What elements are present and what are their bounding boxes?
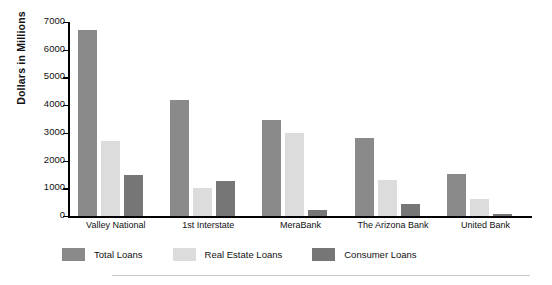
bar [262, 120, 281, 216]
bar [285, 133, 304, 216]
x-tick-label: The Arizona Bank [347, 220, 439, 230]
legend-swatch [173, 248, 196, 261]
legend-item: Real Estate Loans [173, 248, 283, 261]
bar [401, 204, 420, 216]
bar [493, 214, 512, 216]
legend-item: Total Loans [62, 248, 143, 261]
bar [447, 174, 466, 216]
bar-groups: Valley National1st InterstateMeraBankThe… [70, 22, 532, 216]
plot-area: 01000200030004000500060007000 Valley Nat… [68, 22, 538, 216]
y-tick-label: 1000 [44, 181, 65, 192]
bar [308, 210, 327, 216]
y-axis-title: Dollars in Millions [15, 0, 27, 123]
legend-swatch [62, 248, 85, 261]
bar [170, 100, 189, 216]
bar [378, 180, 397, 216]
legend-label: Total Loans [94, 249, 143, 260]
x-tick-label: Valley National [70, 220, 162, 230]
legend-item: Consumer Loans [312, 248, 416, 261]
bar [101, 141, 120, 216]
bar-group: MeraBank [254, 22, 346, 216]
y-tick-label: 0 [60, 209, 65, 220]
y-tick-label: 7000 [44, 15, 65, 26]
bar-chart: Dollars in Millions 01000200030004000500… [0, 0, 552, 285]
y-tick-label: 6000 [44, 43, 65, 54]
bar [470, 199, 489, 216]
bar [78, 30, 97, 216]
bar [193, 188, 212, 216]
x-tick-label: MeraBank [254, 220, 346, 230]
bar-group: Valley National [70, 22, 162, 216]
bar-group: United Bank [439, 22, 531, 216]
y-tick-label: 5000 [44, 70, 65, 81]
bar [355, 138, 374, 216]
bar [216, 181, 235, 216]
bar [124, 175, 143, 216]
x-tick-label: United Bank [439, 220, 531, 230]
bar-group: The Arizona Bank [347, 22, 439, 216]
x-tick-label: 1st Interstate [162, 220, 254, 230]
chart-legend: Total LoansReal Estate LoansConsumer Loa… [62, 248, 447, 261]
legend-swatch [312, 248, 335, 261]
y-tick-label: 3000 [44, 126, 65, 137]
bar-group: 1st Interstate [162, 22, 254, 216]
legend-label: Consumer Loans [344, 249, 416, 260]
bottom-divider [112, 275, 530, 276]
legend-label: Real Estate Loans [205, 249, 283, 260]
x-axis-line [68, 216, 532, 218]
y-tick-label: 4000 [44, 98, 65, 109]
y-tick-label: 2000 [44, 154, 65, 165]
